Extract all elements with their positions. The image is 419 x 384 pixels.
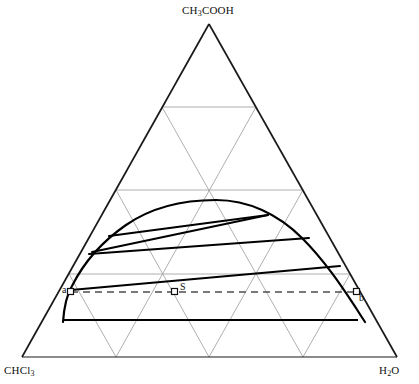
vertex-label-water-text: H xyxy=(379,364,387,376)
point-label-b: b xyxy=(359,292,364,303)
vertex-label-water: H2O xyxy=(379,364,400,378)
marker-point-a xyxy=(68,289,74,295)
vertex-label-chloroform: CHCl3 xyxy=(4,364,35,378)
vertex-label-acetic-acid: CH3COOH xyxy=(182,4,234,18)
grid-right-parallel-3 xyxy=(303,274,350,357)
binodal-curve xyxy=(63,200,365,322)
vertex-label-chloroform-text: CHCl xyxy=(4,364,30,376)
vertex-label-acetic-acid-text2: COOH xyxy=(202,4,234,16)
tie-line-4 xyxy=(71,266,340,290)
tie-lines xyxy=(71,215,340,290)
ternary-phase-diagram xyxy=(0,0,419,384)
point-label-s: S xyxy=(180,281,186,292)
vertex-label-acetic-acid-text: CH xyxy=(182,4,198,16)
vertex-label-water-text2: O xyxy=(391,364,399,376)
tie-line-1 xyxy=(109,215,268,236)
vertex-label-chloroform-sub: 3 xyxy=(30,369,34,378)
point-label-a: a xyxy=(62,284,66,295)
marker-point-s xyxy=(172,289,178,295)
